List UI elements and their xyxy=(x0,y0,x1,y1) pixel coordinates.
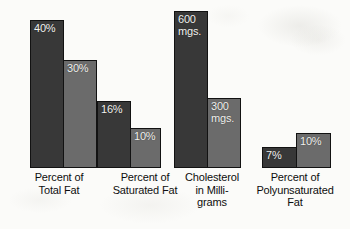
bar-value-label: 30% xyxy=(67,63,94,75)
bar-total-fat-light: 30% xyxy=(63,60,97,168)
bar-value-label: 10% xyxy=(300,136,328,148)
bar-cholesterol-dark: 600 mgs. xyxy=(174,11,208,168)
bar-saturated-fat-dark: 16% xyxy=(97,101,131,168)
bar-value-label: 7% xyxy=(266,150,294,162)
bar-value-label: 10% xyxy=(134,131,158,143)
bar-cholesterol-light: 300 mgs. xyxy=(207,98,241,168)
bar-chart: 40% 30% 16% 10% 600 mgs. 300 mgs. 7% 10%… xyxy=(0,0,350,229)
bar-value-label: 300 mgs. xyxy=(211,101,238,124)
bar-value-label: 16% xyxy=(101,104,128,116)
bar-saturated-fat-light: 10% xyxy=(130,128,161,168)
bar-polyunsaturated-fat-light: 10% xyxy=(296,133,331,168)
category-label-polyunsaturated-fat: Percent of Polyunsaturated Fat xyxy=(240,171,350,209)
bar-polyunsaturated-fat-dark: 7% xyxy=(262,147,297,168)
bar-value-label: 40% xyxy=(34,23,61,35)
bar-total-fat-dark: 40% xyxy=(30,20,64,168)
bar-value-label: 600 mgs. xyxy=(178,14,205,37)
